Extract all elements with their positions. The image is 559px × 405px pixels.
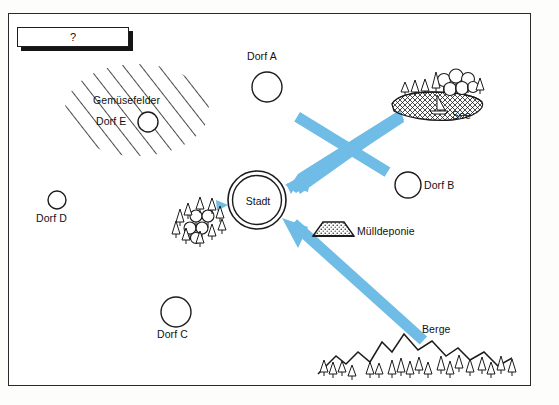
vegetable-fields-area (55, 55, 225, 170)
map-graphics (0, 0, 559, 405)
village-node-dorf-b[interactable] (395, 172, 421, 198)
village-label-dorf-d: Dorf D (36, 213, 67, 224)
village-label-dorf-e: Dorf E (96, 116, 126, 127)
village-node-dorf-a[interactable] (252, 72, 282, 102)
arrow-forest-to-city (216, 200, 228, 211)
figure-canvas: ? (0, 0, 559, 405)
area-label-gemuesefelder: Gemüsefelder (93, 95, 160, 106)
city-label: Stadt (238, 195, 278, 207)
area-label-mulldeponie: Mülldeponie (357, 226, 415, 237)
area-label-berge: Berge (422, 324, 451, 335)
village-node-dorf-d[interactable] (48, 191, 66, 209)
arrow-lake-to-city (285, 110, 404, 194)
area-label-see: See (452, 110, 471, 121)
village-node-dorf-c[interactable] (161, 297, 191, 327)
village-label-dorf-a: Dorf A (247, 51, 277, 62)
landfill-icon (313, 222, 354, 236)
village-label-dorf-b: Dorf B (424, 180, 454, 191)
village-label-dorf-c: Dorf C (157, 329, 188, 340)
village-node-dorf-e[interactable] (138, 112, 158, 132)
